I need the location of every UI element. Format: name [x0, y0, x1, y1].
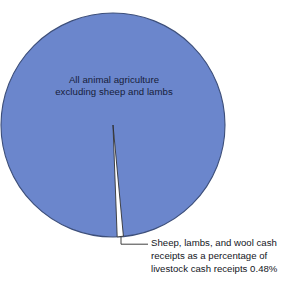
callout-leader-line — [121, 237, 148, 244]
pie-chart-figure: All animal agriculture excluding sheep a… — [0, 0, 295, 285]
pie-slice-callout-sheep-lambs-wool: Sheep, lambs, and wool cash receipts as … — [151, 236, 295, 275]
